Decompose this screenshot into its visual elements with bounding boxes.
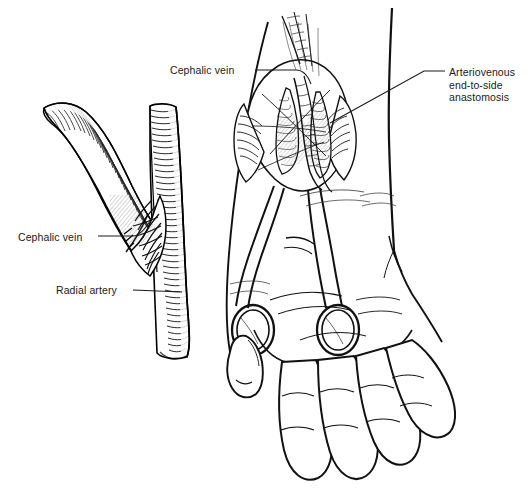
label-arteriovenous-anastomosis: Arteriovenous end-to-side anastomosis bbox=[449, 66, 515, 104]
label-cephalic-vein-top: Cephalic vein bbox=[170, 64, 234, 77]
fingers bbox=[279, 340, 455, 480]
forearm-outline bbox=[227, 8, 442, 352]
medical-illustration-figure: Cephalic vein Cephalic vein Radial arter… bbox=[0, 0, 530, 494]
label-cephalic-vein-left: Cephalic vein bbox=[18, 231, 82, 244]
surgical-wound bbox=[234, 12, 356, 192]
thumb bbox=[227, 336, 263, 398]
forearm-hand-overview bbox=[227, 8, 455, 480]
label-radial-artery: Radial artery bbox=[56, 284, 117, 297]
ring-handled-instruments bbox=[232, 186, 359, 355]
